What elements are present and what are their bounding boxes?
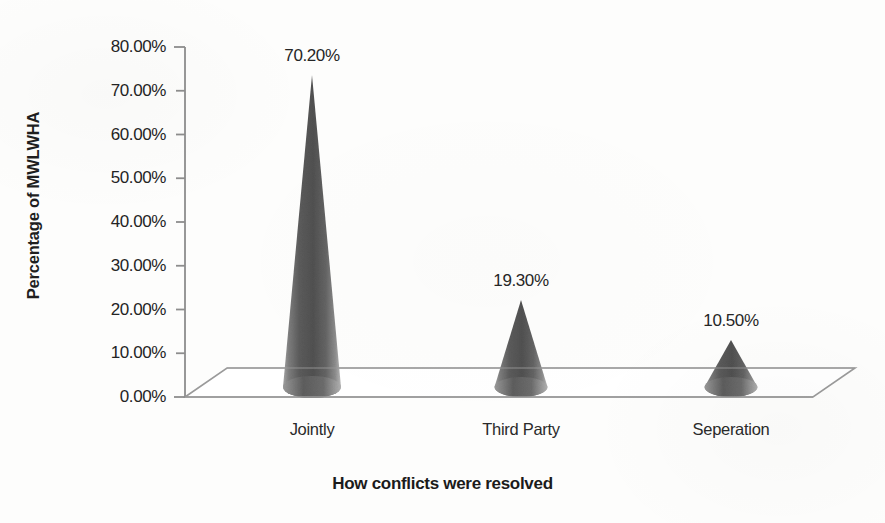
category-label-jointly: Jointly [290, 420, 335, 439]
data-label-jointly: 70.20% [284, 46, 339, 66]
cone-body [283, 75, 341, 398]
cone-base [705, 377, 758, 397]
data-label-third-party: 19.30% [493, 271, 548, 291]
cone-jointly [283, 75, 341, 398]
cone-series [283, 75, 758, 398]
cone-chart: Percentage of MWLWHA 80.00%70.00%60.00%5… [0, 0, 885, 523]
cone-base [283, 376, 341, 398]
data-label-seperation: 10.50% [703, 311, 758, 331]
category-label-seperation: Seperation [693, 420, 770, 439]
cone-third-party [495, 300, 548, 397]
x-axis-title: How conflicts were resolved [0, 474, 885, 494]
cone-base [495, 377, 548, 397]
plot-area [0, 0, 885, 523]
category-label-third-party: Third Party [482, 420, 559, 439]
y-axis [174, 47, 185, 397]
